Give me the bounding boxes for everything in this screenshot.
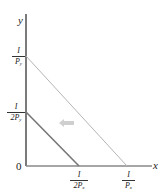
- budget-line-outer: [26, 56, 127, 166]
- tick-denominator: 2P: [10, 113, 19, 122]
- tick-numerator: I: [127, 171, 130, 179]
- tick-subscript: y: [20, 61, 22, 66]
- y-axis-label: y: [18, 15, 23, 26]
- origin-label: 0: [16, 160, 22, 172]
- budget-line-inner: [26, 112, 79, 166]
- tick-numerator: I: [78, 171, 81, 179]
- chart-canvas: [0, 0, 168, 195]
- shift-left-arrow-icon: [59, 119, 74, 127]
- tick-subscript: x: [130, 185, 132, 190]
- tick-denominator: 2P: [73, 181, 82, 190]
- y-tick-low: I 2Py: [7, 103, 25, 122]
- tick-subscript: x: [82, 185, 84, 190]
- x-axis-label: x: [153, 160, 158, 171]
- y-tick-high: I Py: [12, 47, 25, 66]
- x-tick-low: I 2Px: [70, 171, 88, 190]
- tick-numerator: I: [15, 103, 18, 111]
- tick-numerator: I: [17, 47, 20, 55]
- tick-subscript: y: [19, 117, 21, 122]
- x-tick-high: I Px: [122, 171, 135, 190]
